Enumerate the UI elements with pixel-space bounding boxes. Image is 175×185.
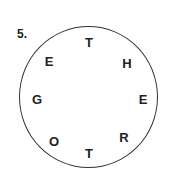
puzzle-number: 5. (17, 27, 27, 41)
letter-7: E (45, 54, 54, 69)
letter-5: O (49, 134, 59, 149)
letter-3: R (119, 130, 128, 145)
letter-1: H (122, 56, 131, 71)
letter-4: T (85, 146, 93, 161)
letter-2: E (139, 92, 148, 107)
letter-0: T (85, 35, 93, 50)
letter-6: G (32, 92, 42, 107)
